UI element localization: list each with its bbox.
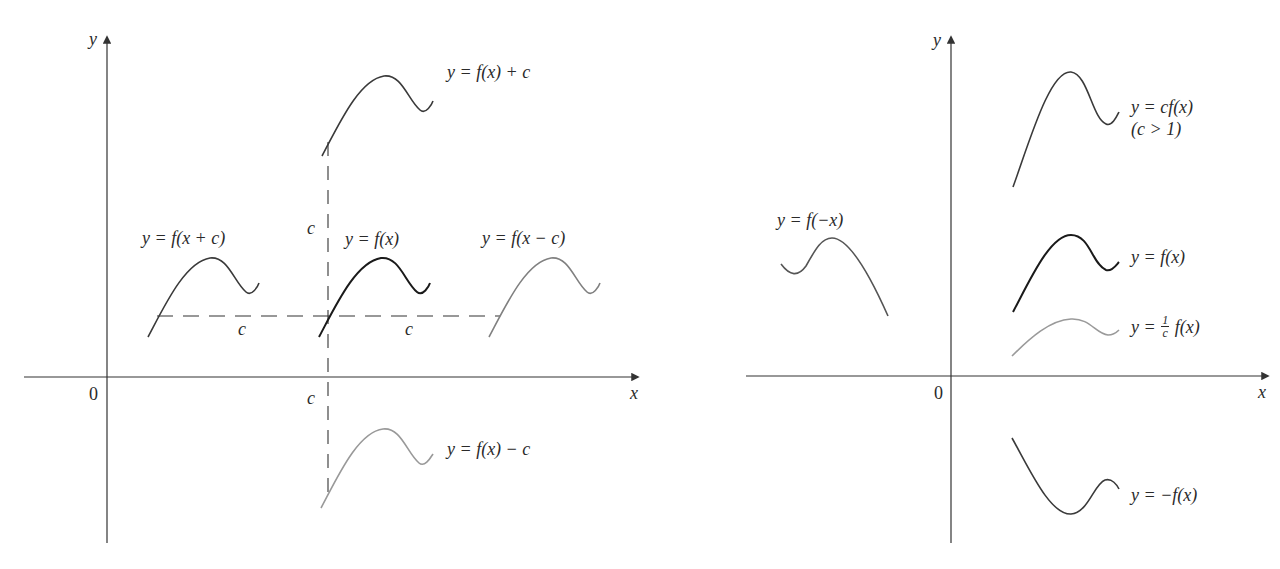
curve-f-x-minus-c (489, 258, 600, 337)
shift-label-c-right: c (405, 320, 413, 338)
fraction-denominator: c (1161, 327, 1169, 339)
curve-neg-f-x (1012, 438, 1119, 514)
shift-label-c-left: c (238, 320, 246, 338)
fraction-one-over-c: 1 c (1161, 314, 1169, 339)
right-origin-label: 0 (934, 384, 943, 402)
left-x-axis-label: x (630, 384, 638, 402)
shift-label-c-up: c (307, 219, 315, 237)
curve-inv-c-f-x (1012, 319, 1119, 356)
figure-canvas (0, 0, 1280, 569)
left-panel (24, 37, 638, 543)
curve-f-x-right (1013, 235, 1119, 312)
curve-c-f-x (1013, 72, 1119, 187)
label-inv-c-suffix: f(x) (1175, 317, 1200, 337)
label-neg-f-x: y = −f(x) (1131, 486, 1197, 504)
curve-f-x-minus-c-vertical (321, 429, 433, 508)
left-origin-label: 0 (89, 385, 98, 403)
curve-f-x-left (319, 258, 430, 337)
curve-f-neg-x (781, 238, 888, 316)
shift-label-c-down: c (307, 389, 315, 407)
label-f-x-right: y = f(x) (1131, 248, 1185, 266)
label-f-neg-x: y = f(−x) (777, 211, 843, 229)
label-f-x-minus-c: y = f(x − c) (482, 229, 565, 247)
label-f-x-plus-c: y = f(x + c) (142, 229, 225, 247)
label-c-greater-than-1: (c > 1) (1131, 120, 1181, 138)
right-y-axis-label: y (933, 31, 941, 49)
left-y-axis-label: y (89, 30, 97, 48)
right-x-axis-label: x (1258, 383, 1266, 401)
transformations-figure: y x 0 c c c c y = f(x + c) y = f(x) y = … (0, 0, 1280, 569)
curve-f-x-plus-c-vertical (322, 76, 433, 156)
label-inv-c-prefix: y = (1131, 317, 1160, 337)
label-f-x-left: y = f(x) (345, 230, 399, 248)
label-inv-c-f-x: y = 1 c f(x) (1131, 316, 1200, 341)
label-c-f-x: y = cf(x) (1131, 98, 1193, 116)
label-f-x-minus-c-vertical: y = f(x) − c (447, 440, 530, 458)
label-f-x-plus-c-vertical: y = f(x) + c (447, 63, 530, 81)
